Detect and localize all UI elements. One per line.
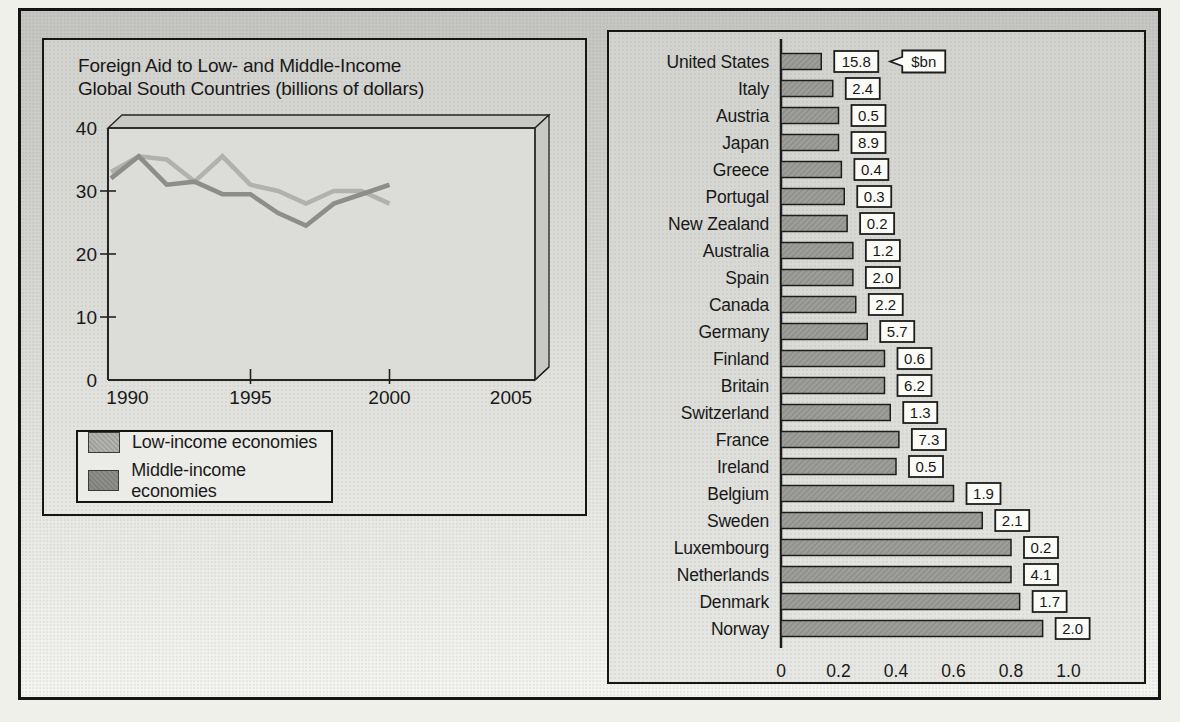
country-label: Portugal — [705, 187, 769, 207]
middle-income-swatch — [88, 470, 119, 491]
country-label: Britain — [721, 376, 769, 396]
bar-x-axis-label: 1.0 — [1056, 661, 1081, 681]
value-label: 1.9 — [973, 485, 994, 502]
chart-top-face — [108, 115, 549, 128]
value-label: 0.3 — [864, 188, 885, 205]
country-label: New Zealand — [668, 214, 769, 234]
value-label: 1.3 — [910, 404, 931, 421]
bar — [781, 594, 1020, 610]
legend-row-low-income: Low-income economies — [88, 432, 331, 453]
bar — [781, 405, 890, 421]
country-label: Denmark — [699, 592, 769, 612]
country-label: Finland — [713, 349, 769, 369]
country-label: France — [716, 430, 769, 450]
bar-x-axis-label: 0.2 — [826, 661, 850, 681]
country-label: Spain — [725, 268, 769, 288]
bar — [781, 567, 1011, 583]
bar — [781, 540, 1011, 556]
bar — [781, 486, 954, 502]
bar-x-axis-label: 0.8 — [999, 661, 1023, 681]
country-label: Belgium — [707, 484, 769, 504]
value-label: 7.3 — [918, 431, 939, 448]
figure-frame: Foreign Aid to Low- and Middle-Income Gl… — [18, 8, 1161, 700]
bar — [781, 135, 839, 151]
x-axis-label: 2000 — [368, 387, 410, 408]
value-label: 0.4 — [861, 161, 882, 178]
bar — [781, 81, 833, 97]
bar — [781, 378, 885, 394]
value-label: 0.2 — [1031, 539, 1052, 556]
country-label: Greece — [713, 160, 769, 180]
value-label: 0.6 — [904, 350, 925, 367]
bar — [781, 459, 896, 475]
value-label: 2.4 — [852, 80, 873, 97]
country-label: Italy — [738, 79, 770, 99]
country-label: Germany — [698, 322, 769, 342]
country-label: Norway — [711, 619, 770, 639]
y-axis-label: 0 — [86, 370, 97, 391]
value-label: 1.7 — [1039, 593, 1060, 610]
y-axis-label: 30 — [76, 181, 97, 202]
bar-chart: United States15.8$bnItaly2.4Austria0.5Ja… — [609, 32, 1144, 682]
value-label: 15.8 — [842, 53, 871, 70]
value-label: 0.5 — [858, 107, 879, 124]
bar — [781, 621, 1043, 637]
value-label: 6.2 — [904, 377, 925, 394]
line-chart-legend: Low-income economies Middle-income econo… — [76, 430, 333, 503]
country-label: Netherlands — [677, 565, 770, 585]
value-label: 0.5 — [916, 458, 937, 475]
country-label: Sweden — [707, 511, 769, 531]
low-income-swatch — [88, 432, 120, 453]
bar — [781, 243, 853, 259]
bar — [781, 189, 844, 205]
y-axis-label: 20 — [76, 244, 97, 265]
x-axis-label: 1990 — [106, 387, 148, 408]
value-label: 4.1 — [1031, 566, 1052, 583]
bar — [781, 54, 821, 70]
country-label: Switzerland — [681, 403, 769, 423]
value-label: 2.1 — [1002, 512, 1023, 529]
value-label: 2.0 — [872, 269, 893, 286]
bar-chart-panel: United States15.8$bnItaly2.4Austria0.5Ja… — [607, 30, 1146, 684]
legend-label-low-income: Low-income economies — [132, 432, 317, 453]
bar-x-axis-label: 0.6 — [941, 661, 965, 681]
y-axis-label: 10 — [76, 307, 97, 328]
y-axis-label: 40 — [76, 118, 97, 139]
value-label: 0.2 — [867, 215, 888, 232]
bar — [781, 351, 885, 367]
bar — [781, 324, 867, 340]
legend-label-middle-income: Middle-income economies — [131, 460, 331, 502]
bar — [781, 513, 982, 529]
value-label: 2.0 — [1062, 620, 1083, 637]
value-label: 8.9 — [858, 134, 879, 151]
x-axis-label: 1995 — [229, 387, 271, 408]
value-label: 1.2 — [872, 242, 893, 259]
country-label: Austria — [716, 106, 770, 126]
legend-row-middle-income: Middle-income economies — [88, 460, 331, 502]
bar — [781, 216, 847, 232]
bar-x-axis-label: 0.4 — [884, 661, 909, 681]
country-label: Canada — [709, 295, 770, 315]
country-label: Japan — [722, 133, 769, 153]
x-axis-label: 2005 — [490, 387, 532, 408]
bar — [781, 297, 856, 313]
bar — [781, 270, 853, 286]
country-label: United States — [667, 52, 770, 72]
bar — [781, 108, 839, 124]
value-label: 2.2 — [875, 296, 896, 313]
bar-x-axis-label: 0 — [776, 661, 786, 681]
page: { "chart_data": [ { "type": "line", "sty… — [0, 0, 1180, 722]
bn-callout-label: $bn — [911, 53, 936, 70]
country-label: Australia — [703, 241, 770, 261]
value-label: 5.7 — [887, 323, 908, 340]
bar — [781, 162, 841, 178]
line-chart-panel: Foreign Aid to Low- and Middle-Income Gl… — [42, 38, 587, 516]
bar — [781, 432, 899, 448]
country-label: Ireland — [717, 457, 769, 477]
chart-right-face — [535, 115, 549, 380]
country-label: Luxembourg — [674, 538, 769, 558]
